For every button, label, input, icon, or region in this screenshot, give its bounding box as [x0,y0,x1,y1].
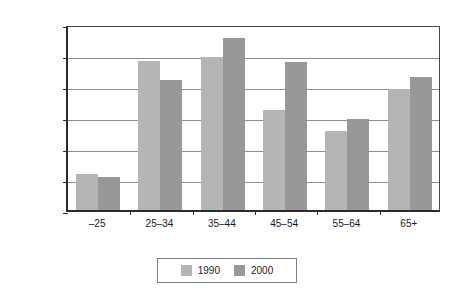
bar-1990-55–64 [325,131,347,210]
bars-layer [68,27,439,210]
legend-swatch-icon [181,265,192,276]
bar-group [68,27,130,210]
bar-1990-35–44 [201,57,223,210]
bar-2000-45–54 [285,62,307,210]
bar-1990-25–34 [138,61,160,210]
bar-group [380,27,442,210]
bar-chart: 0500,0001,000,0001,500,0002,000,0002,500… [0,0,454,293]
bar-1990-65+ [388,89,410,210]
bar-2000-35–44 [223,38,245,210]
bar-1990-45–54 [263,110,285,210]
bar-1990-–25 [76,174,98,210]
x-tick-mark [255,210,256,215]
legend-entry-1990: 1990 [181,265,220,276]
legend-entry-2000: 2000 [234,265,273,276]
x-tick-mark [380,210,381,215]
legend-swatch-icon [234,265,245,276]
x-tick-mark [193,210,194,215]
plot-area: 0500,0001,000,0001,500,0002,000,0002,500… [66,26,440,212]
bar-2000-25–34 [160,80,182,210]
bar-group [255,27,317,210]
bar-2000-55–64 [347,119,369,210]
bar-group [130,27,192,210]
x-tick-label: 65+ [369,218,449,229]
bar-2000-–25 [98,177,120,210]
x-tick-mark [130,210,131,215]
legend-label: 2000 [251,265,273,276]
x-tick-mark [317,210,318,215]
y-tick-mark [63,213,68,214]
bar-group [317,27,379,210]
chart-legend: 19902000 [157,258,297,283]
legend-label: 1990 [198,265,220,276]
bar-2000-65+ [410,77,432,210]
bar-group [193,27,255,210]
